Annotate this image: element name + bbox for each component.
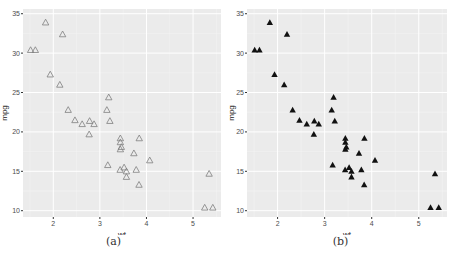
y-tick-label: 25 bbox=[236, 89, 244, 96]
y-tick-label: 15 bbox=[236, 168, 244, 175]
plot-background bbox=[23, 9, 221, 217]
y-tick-label: 25 bbox=[12, 89, 20, 96]
panel-b: 2345101520253035wtmpg (b) bbox=[227, 0, 454, 258]
y-tick-label: 35 bbox=[12, 10, 20, 17]
y-tick-label: 10 bbox=[12, 207, 20, 214]
y-tick-label: 30 bbox=[12, 50, 20, 57]
scatter-plot-b: 2345101520253035wtmpg bbox=[227, 0, 454, 235]
x-tick-label: 2 bbox=[51, 220, 55, 227]
x-tick-label: 5 bbox=[417, 220, 421, 227]
y-axis-title: mpg bbox=[0, 105, 9, 121]
x-tick-label: 2 bbox=[276, 220, 280, 227]
x-tick-label: 4 bbox=[145, 220, 149, 227]
x-tick-label: 3 bbox=[323, 220, 327, 227]
y-axis-title: mpg bbox=[227, 105, 236, 121]
y-tick-label: 20 bbox=[12, 128, 20, 135]
panel-a: 2345101520253035wtmpg (a) bbox=[0, 0, 227, 258]
y-tick-label: 30 bbox=[236, 50, 244, 57]
y-tick-label: 35 bbox=[236, 10, 244, 17]
y-tick-label: 15 bbox=[12, 168, 20, 175]
y-tick-label: 20 bbox=[236, 128, 244, 135]
y-tick-label: 10 bbox=[236, 207, 244, 214]
x-tick-label: 4 bbox=[370, 220, 374, 227]
x-tick-label: 5 bbox=[191, 220, 195, 227]
caption-a: (a) bbox=[0, 235, 227, 248]
scatter-plot-a: 2345101520253035wtmpg bbox=[0, 0, 227, 235]
plot-background bbox=[247, 9, 447, 217]
x-tick-label: 3 bbox=[98, 220, 102, 227]
caption-b: (b) bbox=[227, 235, 454, 248]
